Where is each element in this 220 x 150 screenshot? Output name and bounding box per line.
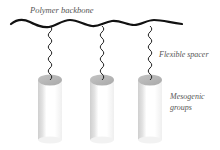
mesogen-cylinder-body [138,80,162,140]
backbone-label: Polymer backbone [29,5,94,15]
mesogen-cylinder-bottom [138,137,162,144]
mesogen-cylinder-bottom [38,137,62,144]
flexible-spacer [148,26,152,80]
spacer-label: Flexible spacer [158,50,209,59]
mesogen-cylinder-body [90,80,114,140]
polymer-backbone [11,20,182,27]
flexible-spacer [100,26,104,80]
flexible-spacer [48,26,52,80]
mesogen-cylinder-bottom [90,137,114,144]
mesogen-label-line1: Mesogenic [169,92,205,101]
polymer-diagram: Polymer backbone Flexible spacer Mesogen… [0,0,220,150]
mesogen-cylinder-body [38,80,62,140]
mesogen-label-line2: groups [170,103,192,112]
